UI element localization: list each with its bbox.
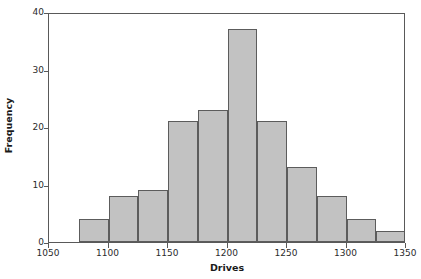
y-axis-tick-label: 40 <box>22 8 44 17</box>
histogram-bars <box>49 14 404 242</box>
x-axis-tick-label: 1150 <box>147 249 187 258</box>
x-axis-tick-label: 1350 <box>385 249 421 258</box>
y-axis-tick-label: 30 <box>22 66 44 75</box>
y-axis-title-text: Frequency <box>4 97 15 153</box>
histogram-bar <box>317 196 347 242</box>
histogram-bar <box>198 110 228 242</box>
histogram-bar <box>228 29 258 242</box>
y-axis-tick-label: 10 <box>22 181 44 190</box>
histogram-bar <box>109 196 139 242</box>
histogram-bar <box>347 219 377 242</box>
x-axis-tick-labels: 1050110011501200125013001350 <box>48 249 406 263</box>
histogram-chart: Frequency 010203040 10501100115012001250… <box>0 0 421 279</box>
histogram-bar <box>168 121 198 242</box>
x-axis-tick-label: 1100 <box>88 249 128 258</box>
y-axis-tick-label: 0 <box>22 238 44 247</box>
x-axis-tick-label: 1200 <box>207 249 247 258</box>
y-axis-title: Frequency <box>0 0 18 250</box>
x-axis-title: Drives <box>48 262 406 273</box>
histogram-bar <box>138 190 168 242</box>
x-axis-tick-label: 1250 <box>266 249 306 258</box>
histogram-bar <box>376 231 405 243</box>
histogram-bar <box>257 121 287 242</box>
x-axis-tick-label: 1050 <box>28 249 68 258</box>
plot-area <box>48 13 405 243</box>
histogram-bar <box>287 167 317 242</box>
y-axis-tick-label: 20 <box>22 123 44 132</box>
x-axis-tick-label: 1300 <box>326 249 366 258</box>
histogram-bar <box>79 219 109 242</box>
y-axis-tick-labels: 010203040 <box>18 0 44 279</box>
